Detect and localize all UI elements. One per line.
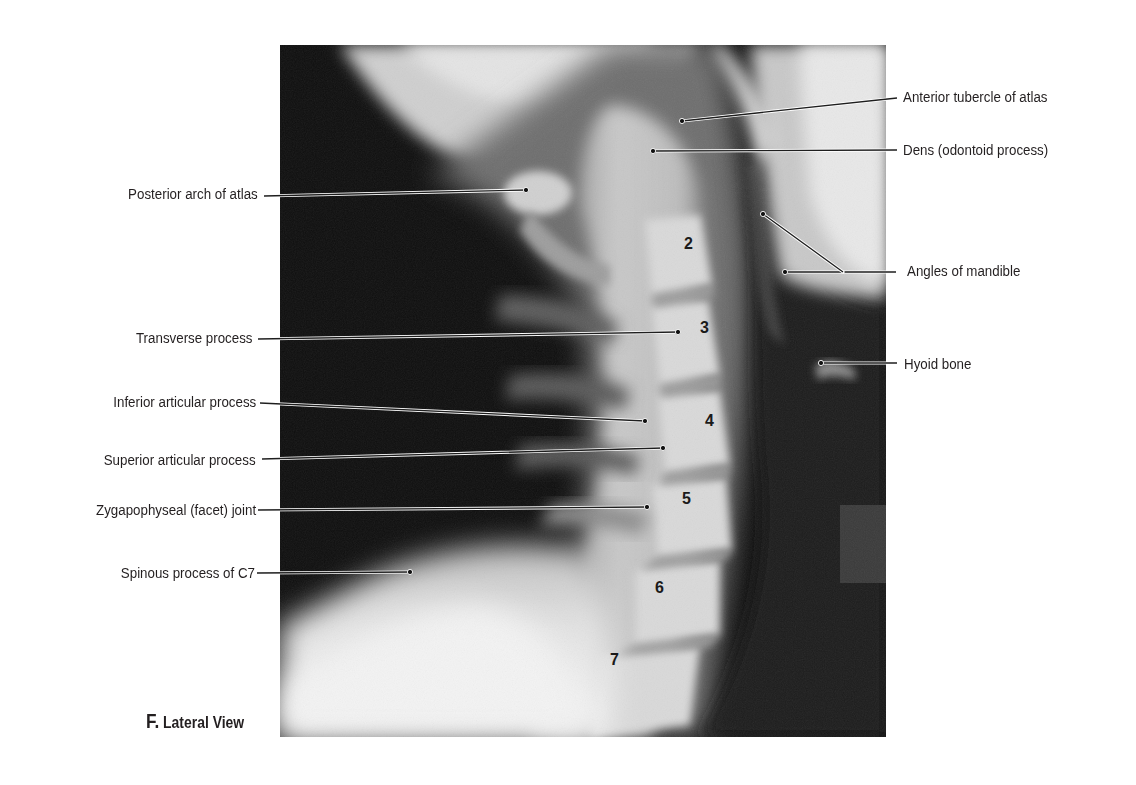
- label-posterior-arch-of-atlas: Posterior arch of atlas: [128, 185, 258, 203]
- label-anterior-tubercle-of-atlas: Anterior tubercle of atlas: [903, 88, 1047, 106]
- label-dens-odontoid-process: Dens (odontoid process): [903, 141, 1048, 159]
- vertebra-number-c7: 7: [610, 651, 619, 669]
- label-superior-articular-process: Superior articular process: [104, 451, 256, 469]
- label-zygapophyseal-facet-joint: Zygapophyseal (facet) joint: [96, 501, 256, 519]
- vertebra-number-c3: 3: [700, 319, 709, 337]
- figure-caption: F. Lateral View: [146, 709, 244, 733]
- caption-letter: F.: [146, 709, 159, 732]
- caption-text: Lateral View: [163, 713, 244, 732]
- xray-rendering: [280, 45, 886, 737]
- anatomy-figure: Posterior arch of atlasTransverse proces…: [0, 0, 1136, 785]
- label-hyoid-bone: Hyoid bone: [904, 355, 971, 373]
- vertebra-number-c2: 2: [684, 235, 693, 253]
- vertebra-number-c4: 4: [705, 412, 714, 430]
- xray-image-lateral-cervical-spine: [280, 45, 886, 737]
- label-angles-of-mandible: Angles of mandible: [907, 262, 1020, 280]
- label-spinous-process-of-c7: Spinous process of C7: [121, 564, 255, 582]
- vertebra-number-c6: 6: [655, 579, 664, 597]
- label-inferior-articular-process: Inferior articular process: [113, 393, 256, 411]
- vertebra-number-c5: 5: [682, 490, 691, 508]
- label-transverse-process: Transverse process: [136, 329, 253, 347]
